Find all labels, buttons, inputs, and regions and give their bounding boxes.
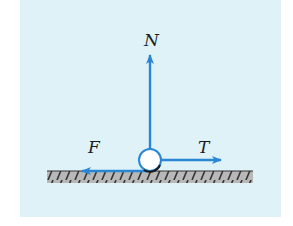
- label-normal: N: [143, 30, 160, 50]
- free-body-diagram: N T F: [0, 0, 293, 226]
- ground: [47, 171, 253, 183]
- body-ball: [139, 149, 161, 172]
- label-friction: F: [87, 137, 101, 157]
- ground-hatching: [47, 171, 253, 183]
- label-tension: T: [198, 137, 211, 157]
